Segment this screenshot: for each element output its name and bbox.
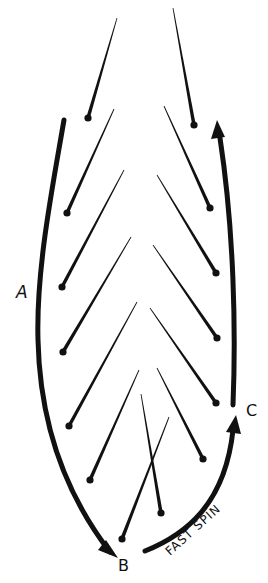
pin-stroke xyxy=(65,302,137,430)
pin-head-dot xyxy=(86,476,93,483)
label-b: B xyxy=(118,556,129,575)
pin-head-dot xyxy=(58,283,65,290)
pin-stroke xyxy=(63,109,114,217)
pin-stroke xyxy=(86,370,139,484)
pin-stroke xyxy=(84,18,117,122)
pin-head-dot xyxy=(118,535,125,542)
pin-head-dot xyxy=(199,455,206,462)
pin-head-dot xyxy=(157,509,164,516)
label-c: C xyxy=(246,401,257,420)
pin-stroke xyxy=(157,368,207,463)
arrowhead-top-icon xyxy=(211,120,225,139)
pin-stroke xyxy=(58,170,124,291)
pin-stroke xyxy=(59,237,131,356)
pin-stroke xyxy=(173,8,198,129)
label-fast-spin: FAST SPIN xyxy=(163,502,224,559)
pin-head-dot xyxy=(84,114,91,121)
pin-stroke xyxy=(141,394,165,517)
spin-diagram: A B C FAST SPIN xyxy=(0,0,268,583)
pin-head-dot xyxy=(213,334,220,341)
pin-stroke xyxy=(118,417,169,543)
herringbone-strokes xyxy=(58,8,220,543)
pin-head-dot xyxy=(63,209,70,216)
pin-head-dot xyxy=(212,269,219,276)
label-a: A xyxy=(15,282,28,302)
path-c-arrow xyxy=(220,138,234,405)
pin-stroke xyxy=(164,106,214,212)
pin-head-dot xyxy=(65,422,72,429)
pin-head-dot xyxy=(212,399,219,406)
pin-head-dot xyxy=(206,204,213,211)
pin-head-dot xyxy=(59,348,66,355)
pin-stroke xyxy=(150,308,220,407)
pin-stroke xyxy=(157,175,220,277)
arrowhead-c-icon xyxy=(226,415,241,434)
pin-head-dot xyxy=(190,121,197,128)
